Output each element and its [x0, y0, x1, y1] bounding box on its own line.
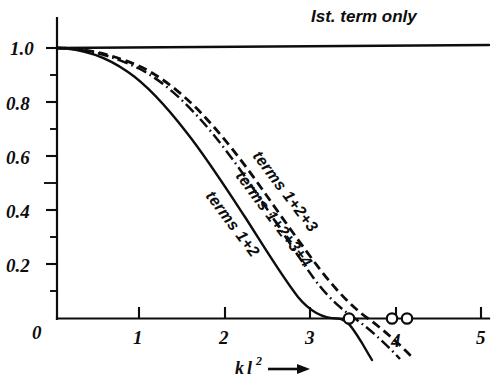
y-tick-label-0-6: 0.6 [6, 147, 30, 168]
x-tick-label-5: 5 [476, 327, 486, 348]
chart-svg: 1.0 0.8 0.6 0.4 0.2 0 1 2 3 4 5 k l 2 [0, 0, 493, 384]
marker-zero-crossing-terms-1-2 [344, 313, 354, 323]
x-axis-title-exponent: 2 [255, 354, 262, 368]
y-tick-label-0-8: 0.8 [6, 93, 30, 114]
x-axis-title-l: l [247, 358, 252, 378]
x-tick-label-1: 1 [133, 327, 143, 348]
x-axis-title-k: k [235, 358, 244, 378]
y-tick-label-0-2: 0.2 [6, 255, 30, 276]
y-tick-label-0-4: 0.4 [6, 201, 30, 222]
chart-figure: 1.0 0.8 0.6 0.4 0.2 0 1 2 3 4 5 k l 2 [0, 0, 493, 384]
x-tick-label-2: 2 [218, 327, 229, 348]
annotation-first-term-only: Ist. term only [311, 7, 418, 26]
y-tick-label-0: 0 [32, 322, 42, 343]
marker-zero-crossing-terms-1-2-3 [402, 313, 412, 323]
y-tick-label-1-0: 1.0 [10, 38, 34, 59]
x-tick-label-3: 3 [304, 327, 315, 348]
marker-zero-crossing-terms-1-2-3-4 [387, 313, 397, 323]
